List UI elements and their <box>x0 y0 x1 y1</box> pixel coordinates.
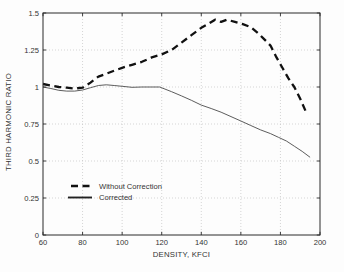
x-tick-label: 140 <box>195 238 208 247</box>
y-tick-label: 0.5 <box>28 157 39 166</box>
y-tick-label: 1.5 <box>28 9 39 18</box>
x-tick-label: 160 <box>235 238 248 247</box>
y-tick-label: 1 <box>35 83 39 92</box>
legend: Without Correction Corrected <box>68 182 162 203</box>
y-tick-label: 0 <box>35 231 39 240</box>
tick-labels: 608010012014016018020000.250.50.7511.251… <box>24 9 326 247</box>
x-tick-label: 120 <box>155 238 168 247</box>
legend-corrected-label: Corrected <box>99 193 132 202</box>
x-axis-label: DENSITY, KFCI <box>153 250 210 259</box>
x-tick-label: 80 <box>78 238 86 247</box>
series-line-corrected <box>43 85 310 158</box>
gridlines <box>43 13 320 235</box>
data-series <box>43 20 310 158</box>
third-harmonic-ratio-chart: 608010012014016018020000.250.50.7511.251… <box>0 0 344 272</box>
y-tick-label: 0.75 <box>24 120 39 129</box>
legend-without-correction-label: Without Correction <box>99 182 162 191</box>
y-tick-label: 1.25 <box>24 46 39 55</box>
x-tick-label: 100 <box>116 238 129 247</box>
x-tick-label: 60 <box>39 238 47 247</box>
series-line-without-correction <box>43 20 306 113</box>
chart-figure: 608010012014016018020000.250.50.7511.251… <box>0 0 344 272</box>
y-axis-label: THIRD HARMONIC RATIO <box>4 73 13 171</box>
x-tick-label: 180 <box>274 238 287 247</box>
x-tick-label: 200 <box>314 238 327 247</box>
y-tick-label: 0.25 <box>24 194 39 203</box>
